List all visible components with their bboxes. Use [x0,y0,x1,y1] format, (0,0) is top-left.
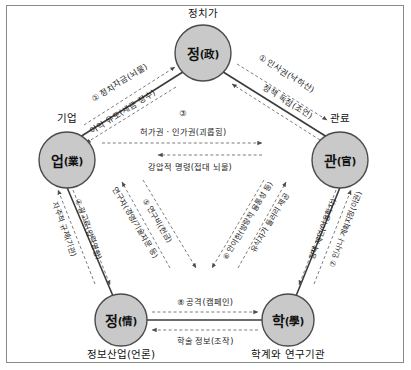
node-business[interactable]: 업(業) 기업 [39,112,95,188]
dashed-arrow-group [58,64,351,330]
edge-label-8-text: ⑧공격(캠페인) [177,297,233,307]
diagram-canvas: 정(政) 정치가 업(業) 기업 관(官) 관료 정(情) 정보산업(언론) [0,0,411,370]
node-business-outer-label: 기업 [57,112,77,124]
node-politics-label: 정(政) [187,46,220,62]
node-politics[interactable]: 정(政) 정치가 [175,7,231,81]
edge-label-academia-information-text: 학술 정보(조작) [177,336,234,346]
edge-number-3: ③ [179,108,186,118]
node-academia-label: 학(學) [272,313,305,329]
edge-label-information-business: 자주적 규제(기관) [50,200,79,257]
node-business-label: 업(業) [51,153,84,169]
node-bureaucracy[interactable]: 관(官) 관료 [312,112,368,188]
edge-label-bureaucracy-business-text: 강압적 명령(접대 뇌물) [148,162,232,172]
pentagon-relationship-diagram: 정(政) 정치가 업(業) 기업 관(官) 관료 정(情) 정보산업(언론) [0,0,411,370]
node-bureaucracy-label: 관(官) [324,153,357,169]
node-politics-outer-label: 정치가 [188,7,218,19]
edge-politics-bureaucracy [220,70,327,137]
node-academia-outer-label: 학계와 연구기관 [251,348,324,360]
node-information-outer-label: 정보산업(언론) [87,348,155,360]
node-academia[interactable]: 학(學) 학계와 연구기관 [251,294,324,360]
edge-label-information-business-text: 자주적 규제(기관) [50,200,79,257]
node-information[interactable]: 정(情) 정보산업(언론) [87,294,155,360]
edge-label-3-text: 허가권 · 인가권(괴롭힘) [140,127,226,137]
arrow-6-bureaucracy-to-information [212,180,264,268]
node-information-label: 정(情) [105,313,138,329]
node-bureaucracy-outer-label: 관료 [330,112,350,124]
